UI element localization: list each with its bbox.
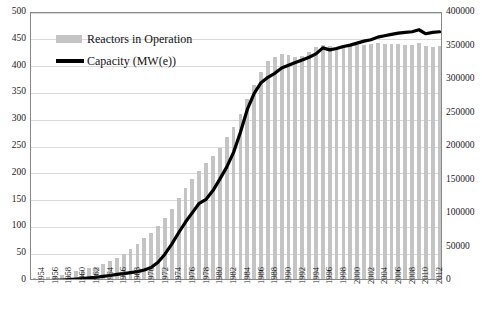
x-axis-tick-label: 1964 (106, 267, 115, 284)
x-axis-tick-label: 1984 (243, 267, 252, 284)
y-axis-right-tick-label: 250000 (446, 108, 475, 118)
y-axis-right-tick-label: 50000 (446, 242, 470, 252)
legend-label-capacity: Capacity (MW(e)) (87, 54, 176, 69)
x-axis-tick-label: 1960 (78, 267, 87, 284)
x-axis-tick-label: 1992 (298, 267, 307, 284)
y-axis-right-tick-label: 200000 (446, 141, 475, 151)
x-axis-tick-label: 1996 (325, 267, 334, 284)
x-axis-tick-label: 1958 (64, 267, 73, 284)
legend-label-reactors: Reactors in Operation (87, 32, 192, 47)
x-axis-tick-label: 1956 (51, 267, 60, 284)
x-axis-tick-label: 1980 (215, 267, 224, 284)
x-axis-tick-label: 2002 (367, 267, 376, 284)
x-axis-tick-label: 2004 (380, 267, 389, 284)
x-axis-tick-label: 2000 (353, 267, 362, 284)
legend-swatch-line-icon (56, 59, 84, 63)
x-axis-tick-label: 2008 (408, 267, 417, 284)
y-axis-left-tick-label: 0 (0, 275, 26, 285)
x-axis-tick-label: 1972 (161, 267, 170, 284)
x-axis-tick-label: 1978 (202, 267, 211, 284)
y-axis-left-tick-label: 150 (0, 195, 26, 205)
x-axis-tick-label: 1976 (188, 267, 197, 284)
x-axis-tick-label: 2006 (394, 267, 403, 284)
x-axis-tick-label: 1986 (257, 267, 266, 284)
legend-swatch-bar-icon (56, 35, 82, 43)
y-axis-right-tick-label: 100000 (446, 208, 475, 218)
y-axis-right-tick-label: 0 (446, 275, 451, 285)
chart-legend: Reactors in Operation Capacity (MW(e)) (56, 28, 192, 72)
y-axis-left-tick-label: 50 (0, 248, 26, 258)
x-axis-tick-label: 1966 (119, 267, 128, 284)
legend-item-reactors: Reactors in Operation (56, 28, 192, 50)
y-axis-left-tick-label: 450 (0, 34, 26, 44)
y-axis-left-tick-label: 100 (0, 221, 26, 231)
y-axis-left-tick-label: 200 (0, 168, 26, 178)
y-axis-right-tick-label: 400000 (446, 7, 475, 17)
x-axis-tick-label: 2010 (421, 267, 430, 284)
legend-item-capacity: Capacity (MW(e)) (56, 50, 192, 72)
x-axis-tick-label: 1982 (229, 267, 238, 284)
y-axis-right-tick-label: 300000 (446, 74, 475, 84)
x-axis-tick-label: 1998 (339, 267, 348, 284)
x-axis-tick-label: 1954 (37, 267, 46, 284)
y-axis-left-tick-label: 400 (0, 61, 26, 71)
y-axis-left-tick-label: 250 (0, 141, 26, 151)
y-axis-left-tick-label: 350 (0, 87, 26, 97)
y-axis-left-tick-label: 300 (0, 114, 26, 124)
x-axis-tick-label: 1994 (312, 267, 321, 284)
x-axis-tick-label: 1970 (147, 267, 156, 284)
x-axis-tick-label: 1988 (270, 267, 279, 284)
x-axis-tick-label: 1962 (92, 267, 101, 284)
x-axis-tick-label: 2012 (435, 267, 444, 284)
x-axis-tick-label: 1974 (174, 267, 183, 284)
x-axis-tick-label: 1990 (284, 267, 293, 284)
y-axis-left-tick-label: 500 (0, 7, 26, 17)
nuclear-reactors-capacity-chart: Reactors in Operation Capacity (MW(e)) 0… (0, 0, 487, 318)
x-axis-tick-label: 1968 (133, 267, 142, 284)
y-axis-right-tick-label: 350000 (446, 41, 475, 51)
y-axis-right-tick-label: 150000 (446, 175, 475, 185)
